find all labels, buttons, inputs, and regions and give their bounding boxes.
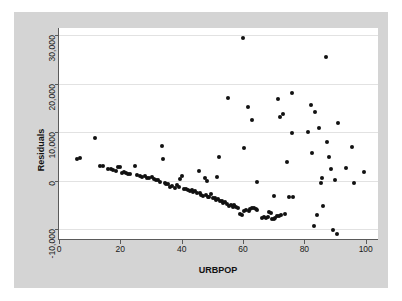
data-point: [250, 118, 254, 122]
y-axis-title: Residuals: [36, 129, 46, 172]
data-point: [281, 112, 285, 116]
data-point: [226, 96, 230, 100]
data-point: [319, 181, 323, 185]
data-point: [362, 170, 366, 174]
x-tick-label: 100: [359, 244, 373, 254]
data-point: [352, 181, 356, 185]
figure-frame: Residuals URBPOP -10,000010,00020,00030,…: [14, 12, 388, 288]
data-point: [272, 194, 276, 198]
data-point: [78, 156, 82, 160]
x-tick-label: 20: [116, 244, 125, 254]
data-point: [285, 160, 289, 164]
y-tick-label: 10,000: [47, 132, 57, 159]
data-point: [336, 121, 340, 125]
data-point: [197, 169, 201, 173]
data-point: [133, 164, 137, 168]
gridline-y: [59, 132, 378, 133]
data-point: [290, 131, 294, 135]
data-point: [236, 206, 240, 210]
x-axis-title: URBPOP: [58, 265, 378, 275]
data-point: [321, 204, 325, 208]
data-point: [325, 140, 329, 144]
data-point: [101, 164, 105, 168]
data-point: [283, 212, 287, 216]
data-point: [215, 175, 219, 179]
data-point: [93, 136, 97, 140]
y-tick-label: 0: [47, 181, 57, 186]
data-point: [217, 155, 221, 159]
data-point: [246, 105, 250, 109]
data-point: [324, 55, 328, 59]
data-point: [255, 208, 259, 212]
data-point: [232, 204, 236, 208]
data-point: [160, 144, 164, 148]
data-point: [309, 103, 313, 107]
data-point: [118, 165, 122, 169]
data-point: [290, 91, 294, 95]
data-point: [335, 232, 339, 236]
data-point: [306, 130, 310, 134]
data-point: [269, 211, 273, 215]
data-point: [205, 179, 209, 183]
data-point: [242, 146, 246, 150]
data-point: [333, 178, 337, 182]
data-point: [128, 172, 132, 176]
scatter-plot-area: -10,000010,00020,00030,000 020406080100: [58, 28, 378, 240]
data-point: [266, 215, 270, 219]
data-point: [240, 213, 244, 217]
y-tick-label: -10,000: [47, 229, 57, 259]
data-point: [291, 195, 295, 199]
gridline-y: [59, 84, 378, 85]
data-point: [310, 151, 314, 155]
y-tick-label: 30,000: [47, 35, 57, 62]
gridline-y: [59, 35, 378, 36]
x-tick-label: 60: [238, 244, 247, 254]
data-point: [329, 167, 333, 171]
data-point: [158, 180, 162, 184]
data-point: [276, 97, 280, 101]
data-point: [312, 224, 316, 228]
data-point: [327, 155, 331, 159]
gridline-y: [59, 229, 378, 230]
data-point: [241, 36, 245, 40]
data-point: [315, 213, 319, 217]
data-point: [161, 157, 165, 161]
data-point: [317, 126, 321, 130]
x-tick-label: 40: [177, 244, 186, 254]
x-tick-label: 80: [300, 244, 309, 254]
data-point: [180, 174, 184, 178]
data-point: [255, 180, 259, 184]
y-tick-label: 20,000: [47, 84, 57, 111]
data-point: [344, 166, 348, 170]
data-point: [350, 145, 354, 149]
data-point: [177, 185, 181, 189]
x-tick-label: 0: [57, 244, 62, 254]
data-point: [114, 169, 118, 173]
data-point: [313, 110, 317, 114]
data-point: [320, 176, 324, 180]
gridline-y: [59, 181, 378, 182]
